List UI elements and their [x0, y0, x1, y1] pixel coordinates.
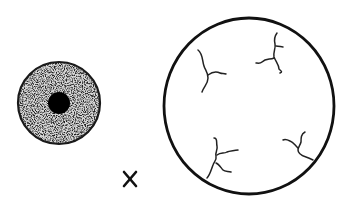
large-cell-membrane [164, 18, 334, 194]
small-cell-nucleus [48, 92, 70, 114]
small-cell [18, 62, 100, 144]
diagram-canvas [0, 0, 352, 211]
cross-symbol [124, 172, 136, 186]
large-cell [164, 18, 334, 194]
